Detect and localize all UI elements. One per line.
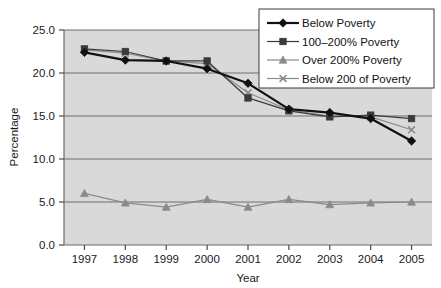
legend-label: Over 200% Poverty (302, 54, 402, 66)
data-point-marker-square (122, 48, 128, 54)
data-point-marker-square (245, 95, 251, 101)
chart-legend: Below Poverty100–200% PovertyOver 200% P… (259, 9, 434, 88)
data-point-marker-square (408, 115, 414, 121)
x-axis-tick-group (84, 245, 411, 250)
x-axis-tick-label: 2004 (358, 253, 384, 265)
y-axis-tick-label: 15.0 (33, 110, 55, 122)
y-axis-tick-label: 0.0 (39, 239, 55, 251)
y-axis-tick-group (59, 30, 64, 245)
y-axis-tick-label: 20.0 (33, 67, 55, 79)
legend-label: 100–200% Poverty (302, 36, 399, 48)
data-point-marker-square (280, 38, 286, 44)
x-axis-tick-label: 1997 (72, 253, 98, 265)
data-point-marker-square (204, 58, 210, 64)
x-axis-tick-label: 2001 (235, 253, 261, 265)
legend-item: Below Poverty (267, 17, 376, 29)
x-axis-title: Year (236, 272, 259, 284)
x-axis-tick-label: 2000 (194, 253, 220, 265)
x-axis-tick-label: 2002 (276, 253, 302, 265)
x-axis-tick-label: 1998 (113, 253, 139, 265)
legend-label: Below Poverty (302, 17, 376, 29)
x-axis-tick-labels: 199719981999200020012002200320042005 (72, 253, 425, 265)
legend-label: Below 200 of Poverty (302, 73, 411, 85)
x-axis-tick-label: 1999 (153, 253, 179, 265)
x-axis-tick-label: 2005 (399, 253, 425, 265)
y-axis-tick-label: 10.0 (33, 153, 55, 165)
y-axis-tick-label: 5.0 (39, 196, 55, 208)
chart-figure: 0.05.010.015.020.025.0 19971998199920002… (0, 0, 441, 288)
x-axis-tick-label: 2003 (317, 253, 343, 265)
y-axis-tick-labels: 0.05.010.015.020.025.0 (33, 24, 55, 251)
y-axis-title: Percentage (8, 108, 20, 167)
y-axis-tick-label: 25.0 (33, 24, 55, 36)
line-chart: 0.05.010.015.020.025.0 19971998199920002… (0, 0, 441, 288)
